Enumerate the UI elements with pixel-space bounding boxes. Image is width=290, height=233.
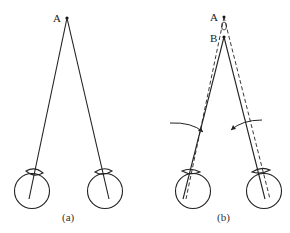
panel-b xyxy=(170,16,282,209)
right-eye xyxy=(88,169,123,209)
left-eyeball xyxy=(15,174,50,209)
point-b-label: B xyxy=(210,32,217,44)
right-eye-lens xyxy=(252,168,270,173)
left-line-of-sight xyxy=(29,18,67,199)
panel-a xyxy=(15,16,123,208)
left-line-of-sight-to-b xyxy=(183,37,224,199)
panel-a-caption: (a) xyxy=(62,211,75,224)
left-eye xyxy=(176,169,211,208)
right-eyeball xyxy=(88,174,123,209)
panel-b-caption: (b) xyxy=(217,211,230,224)
point-a-label: A xyxy=(53,12,61,24)
point-a-label: A xyxy=(210,11,218,23)
right-eyeball xyxy=(247,174,282,209)
left-eyeball xyxy=(176,174,211,209)
right-eye xyxy=(247,168,282,208)
left-dashed-line-from-a xyxy=(186,17,224,199)
binocular-vision-diagram: A (a) A B (b) xyxy=(0,0,290,233)
left-rotation-arrow xyxy=(170,123,203,132)
left-eye xyxy=(15,169,50,209)
right-line-of-sight xyxy=(67,18,109,199)
right-dashed-line-from-a xyxy=(224,17,270,199)
